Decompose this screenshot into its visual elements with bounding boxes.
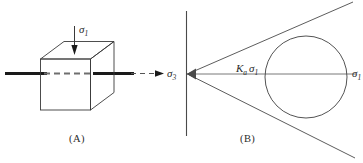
panel-b-caption: (B) (240, 134, 255, 145)
sigma3-label-panel-a: σ3 (167, 68, 176, 82)
sigma1-axis-label-panel-b: σ1 (352, 68, 361, 82)
panel-a-group (5, 26, 164, 110)
panel-a-caption: (A) (69, 134, 85, 145)
cube-front-face (41, 59, 91, 110)
panel-b-group (187, 2, 357, 158)
ka-sigma1-label: Kaσ1 (236, 63, 258, 77)
lower-failure-envelope (188, 74, 356, 158)
figure-container: σ1 σ3 (A) Kaσ1 σ1 (B) (0, 0, 363, 163)
upper-failure-envelope (188, 2, 354, 74)
sigma1-label-panel-a: σ1 (79, 24, 88, 38)
sigma1-subscript: 1 (84, 29, 88, 38)
sigma3-subscript: 3 (172, 73, 176, 82)
sigma1-arrowhead (71, 45, 77, 55)
figure-drawing (0, 0, 363, 163)
sigma-axis-subscript: 1 (357, 73, 361, 82)
cube-right-face (91, 42, 115, 111)
ka-coefficient-subscript: a (243, 68, 247, 77)
mohr-circle (265, 36, 347, 118)
ka-sigma-subscript: 1 (255, 68, 259, 77)
envelope-apex-arrowhead (187, 69, 196, 80)
sigma3-arrowhead (155, 70, 164, 77)
